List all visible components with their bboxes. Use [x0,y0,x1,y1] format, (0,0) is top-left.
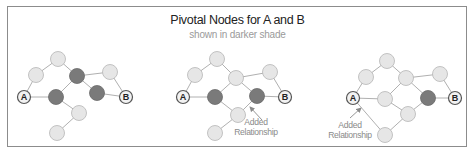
node-ul [359,70,374,85]
annotation-text-line1: Added [244,117,268,127]
graph-canvas: AB ABAddedRelationship ABAddedRelationsh… [0,0,475,154]
node-bot [50,126,65,141]
node-ur [103,65,118,80]
pivotal-node-p1 [421,91,436,106]
node-mt [399,71,414,86]
graph-panel-added-relationship-2: ABAddedRelationship [328,54,461,143]
pivotal-node-p3 [90,86,105,101]
node-label-B: B [452,93,459,103]
node-label-A: A [21,92,28,102]
annotation-text-line1: Added [338,120,362,130]
annotation-arrow [350,108,361,118]
node-low [401,107,416,122]
graph-panel-before: AB [18,52,133,141]
graph-panel-added-relationship-1: ABAddedRelationship [177,52,292,141]
node-top [210,52,225,67]
node-bot [378,128,393,143]
node-low [72,106,87,121]
node-label-B: B [123,92,130,102]
annotation-text-line2: Relationship [234,127,278,137]
node-label-B: B [282,92,289,102]
node-mt [229,71,244,86]
node-top [51,52,66,67]
pivotal-node-p1 [208,90,223,105]
pivotal-node-p1 [70,69,85,84]
node-bot [208,126,223,141]
node-ul [188,68,203,83]
annotation-text-line2: Relationship [328,130,372,140]
node-label-A: A [350,93,357,103]
node-mid [378,92,393,107]
node-top [380,54,395,69]
node-ul [29,68,44,83]
node-low [231,108,246,123]
pivotal-node-p2 [49,90,64,105]
node-label-A: A [180,92,187,102]
node-ur [433,67,448,82]
pivotal-node-p2 [250,89,265,104]
node-ur [263,65,278,80]
